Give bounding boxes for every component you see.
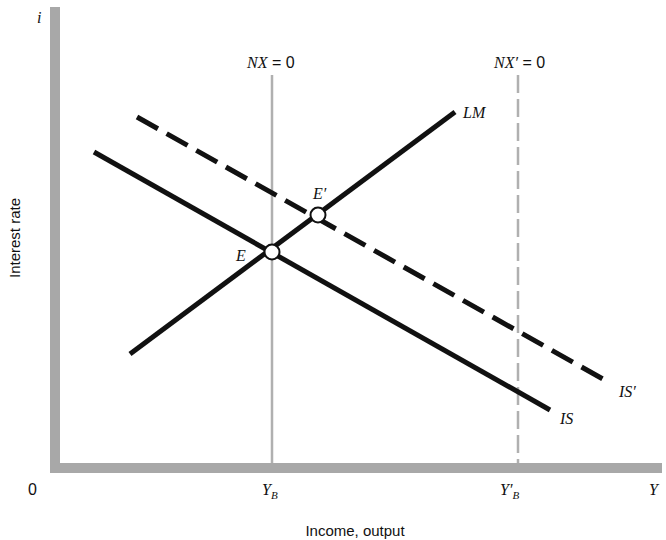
- point-e-prime-label: E′: [312, 185, 327, 202]
- yb-prime-tick-label: Y′B: [500, 481, 519, 501]
- x-axis-symbol: Y: [649, 481, 660, 498]
- is-prime-curve: [137, 117, 610, 383]
- y-axis-label: Interest rate: [6, 198, 23, 278]
- is-label: IS: [559, 410, 573, 427]
- lm-label: LM: [462, 104, 487, 121]
- lm-curve: [130, 112, 455, 354]
- is-prime-label: IS′: [618, 383, 636, 400]
- origin-label: 0: [28, 481, 37, 498]
- point-e-label: E: [235, 247, 246, 264]
- y-axis: [50, 7, 60, 473]
- equilibrium-point-e: [265, 245, 280, 260]
- nx-zero-label: NX = 0: [246, 54, 295, 71]
- yb-tick-label: YB: [262, 481, 278, 501]
- x-axis: [50, 463, 662, 473]
- equilibrium-point-e-prime: [311, 208, 326, 223]
- y-axis-symbol: i: [37, 9, 41, 26]
- is-lm-diagram: i Interest rate NX = 0 NX′ = 0 LM IS IS′…: [0, 0, 666, 540]
- nx-prime-zero-label: NX′ = 0: [493, 54, 545, 71]
- x-axis-label: Income, output: [305, 522, 405, 539]
